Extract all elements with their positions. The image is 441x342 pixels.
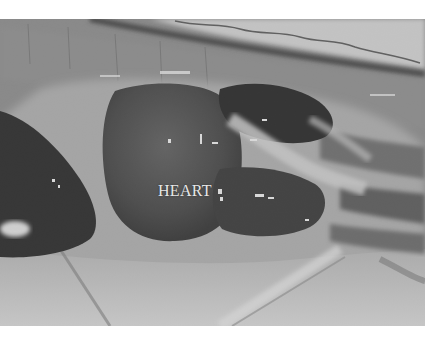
- specimen-photo: HEART: [0, 19, 425, 326]
- specimen-illustration: [0, 19, 425, 326]
- heart-label: HEART: [158, 182, 212, 200]
